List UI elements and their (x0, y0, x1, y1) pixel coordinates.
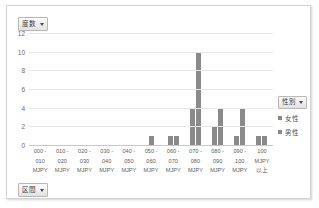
x-axis-category-label: 010 -020MJPY (51, 147, 73, 176)
x-axis-category-label: 030 -040MJPY (96, 147, 118, 176)
x-axis-category-label: 050 -060MJPY (140, 147, 162, 176)
y-axis-tick-label: 12 (18, 30, 25, 37)
plot-inner: 024681012 (29, 33, 273, 145)
y-axis-tick-label: 8 (21, 67, 25, 74)
gridline (29, 108, 273, 109)
x-axis-labels: 000 -010MJPY010 -020MJPY020 -030MJPY030 … (29, 147, 273, 176)
bar[interactable] (262, 136, 267, 145)
chevron-down-icon[interactable] (40, 23, 44, 26)
y-axis-tick-label: 0 (21, 142, 25, 149)
legend-label: 女性 (285, 113, 299, 123)
x-axis-category-label: 070 -080MJPY (184, 147, 206, 176)
gridline (29, 89, 273, 90)
x-axis-category-label: 000 -010MJPY (29, 147, 51, 176)
bar[interactable] (196, 52, 201, 145)
y-axis-tick-label: 2 (21, 123, 25, 130)
bar[interactable] (168, 136, 173, 145)
pivot-chart-frame[interactable]: 度数 024681012 000 -010MJPY010 -020MJPY020… (6, 5, 311, 199)
x-axis-category-label: 060 -070MJPY (162, 147, 184, 176)
legend-field-button[interactable]: 性別 (278, 96, 307, 109)
bar[interactable] (212, 126, 217, 145)
bar[interactable] (234, 136, 239, 145)
legend-entries: 女性男性 (278, 113, 318, 137)
x-axis-category-label: 080 -090MJPY (207, 147, 229, 176)
gridline (29, 33, 273, 34)
plot-area: 024681012 (29, 33, 273, 145)
chevron-down-icon[interactable] (299, 101, 303, 104)
legend: 性別 女性男性 (278, 90, 318, 137)
x-axis-line (29, 145, 273, 146)
bar[interactable] (256, 136, 261, 145)
legend-swatch (278, 130, 282, 134)
legend-title-label: 性別 (282, 99, 296, 106)
x-axis-category-label: 040 -050MJPY (118, 147, 140, 176)
gridline (29, 70, 273, 71)
y-axis-tick-label: 10 (18, 48, 25, 55)
legend-swatch (278, 116, 282, 120)
gridline (29, 52, 273, 53)
x-axis-category-label: 100MJPY以上 (251, 147, 273, 176)
y-axis-tick-label: 6 (21, 86, 25, 93)
x-axis-category-label: 020 -030MJPY (73, 147, 95, 176)
axis-field-label: 区間 (22, 187, 36, 194)
y-axis-tick-label: 4 (21, 104, 25, 111)
gridline (29, 126, 273, 127)
bar[interactable] (149, 136, 154, 145)
x-axis-category-label: 090 -100MJPY (229, 147, 251, 176)
chevron-down-icon[interactable] (40, 189, 44, 192)
value-field-label: 度数 (22, 21, 36, 28)
legend-entry[interactable]: 男性 (278, 127, 318, 137)
bar[interactable] (174, 136, 179, 145)
legend-entry[interactable]: 女性 (278, 113, 318, 123)
legend-label: 男性 (285, 127, 299, 137)
axis-field-button[interactable]: 区間 (18, 183, 48, 197)
